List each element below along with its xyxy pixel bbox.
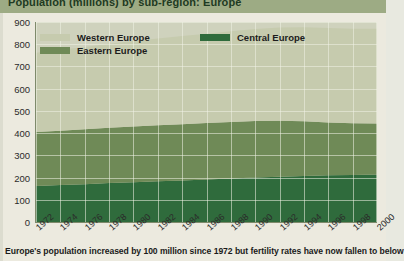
legend-item-central-europe: Central Europe — [200, 31, 305, 43]
y-axis-tick-label: 200 — [14, 172, 30, 183]
legend-swatch-icon — [200, 34, 230, 41]
y-axis-tick-label: 500 — [14, 105, 30, 116]
legend-swatch-icon — [40, 34, 70, 41]
y-axis-tick-label: 400 — [14, 128, 30, 139]
chart-caption: Europe's population increased by 100 mil… — [5, 246, 385, 256]
chart-title-bar: Population (millions) by sub-region: Eur… — [0, 0, 386, 13]
legend-item-western-europe: Western Europe — [40, 31, 150, 43]
y-axis-tick-label: 600 — [14, 83, 30, 94]
y-axis-tick-label: 0 — [25, 217, 30, 228]
y-axis-tick-label: 100 — [14, 194, 30, 205]
legend-label: Central Europe — [237, 32, 305, 43]
y-axis-tick-label: 300 — [14, 150, 30, 161]
y-axis-tick-label: 900 — [14, 17, 30, 28]
page-title: Population (millions) by sub-region: Eur… — [8, 0, 241, 8]
y-axis: 0100200300400500600700800900 — [0, 22, 34, 222]
y-axis-tick-label: 700 — [14, 61, 30, 72]
legend-label: Western Europe — [77, 32, 150, 43]
y-axis-tick-label: 800 — [14, 39, 30, 50]
x-axis-tick-label: 2000 — [375, 212, 397, 233]
legend-label: Eastern Europe — [77, 45, 147, 56]
plot-area: 0100200300400500600700800900 19721974197… — [0, 13, 386, 228]
legend-item-eastern-europe: Eastern Europe — [40, 44, 147, 56]
legend-swatch-icon — [40, 47, 70, 54]
